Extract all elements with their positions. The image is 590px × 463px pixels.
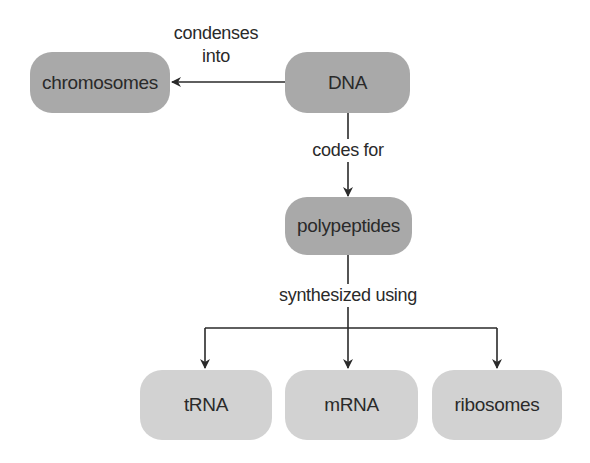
node-mrna: mRNA — [285, 370, 418, 440]
edge-label-condenses-into: condenses into — [172, 22, 260, 68]
edge-label-synthesized-using: synthesized using — [268, 284, 428, 307]
node-dna: DNA — [285, 52, 410, 113]
edge-label-line: into — [172, 45, 260, 68]
node-chromosomes: chromosomes — [30, 52, 170, 113]
node-polypeptides: polypeptides — [285, 197, 412, 255]
node-trna: tRNA — [140, 370, 272, 440]
node-ribosomes: ribosomes — [432, 370, 562, 440]
edge-label-line: condenses — [172, 22, 260, 45]
edge-label-codes-for: codes for — [303, 139, 393, 162]
